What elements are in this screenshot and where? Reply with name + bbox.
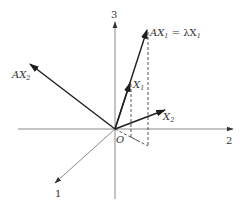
- ax1-label: AX1 = λX1: [149, 27, 201, 40]
- axis-2-label: 2: [226, 135, 232, 146]
- axis-1-label: 1: [55, 188, 61, 199]
- vector-x2: [115, 110, 165, 129]
- axis-1: [55, 129, 115, 183]
- axis-3-label: 3: [111, 9, 117, 20]
- vector-x1: [115, 83, 130, 129]
- ax2-label: AX2: [11, 69, 30, 82]
- vector-ax2: [30, 64, 115, 129]
- x1-label: X1: [132, 79, 144, 92]
- x2-label: X2: [162, 111, 174, 124]
- eigenvector-diagram: 3 2 1 O AX1 = λX1 X1 X2 AX2: [0, 0, 246, 207]
- origin-label: O: [116, 134, 124, 145]
